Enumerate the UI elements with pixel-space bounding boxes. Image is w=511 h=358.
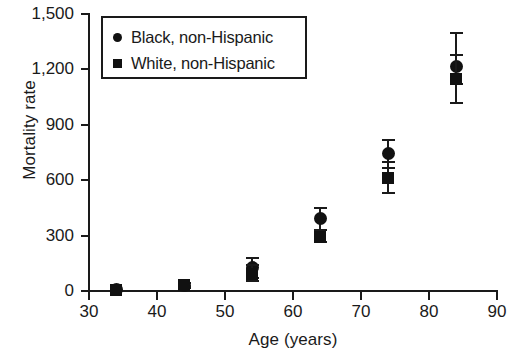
y-tick-label: 900 (0, 116, 74, 133)
circle-marker-icon (113, 33, 131, 42)
x-tick (360, 292, 362, 300)
y-tick-label: 1,200 (0, 60, 74, 77)
data-point-white (110, 284, 122, 296)
x-tick-label: 60 (273, 303, 313, 320)
x-tick-label: 30 (69, 303, 109, 320)
legend-label: White, non-Hispanic (131, 54, 275, 73)
x-tick-label: 80 (409, 303, 449, 320)
error-bar-cap (450, 102, 463, 104)
y-tick (81, 68, 89, 70)
error-bar-cap (382, 192, 395, 194)
data-point-white (246, 268, 258, 280)
x-tick-label: 70 (341, 303, 381, 320)
legend-label: Black, non-Hispanic (131, 28, 273, 47)
x-tick-label: 40 (137, 303, 177, 320)
x-tick (428, 292, 430, 300)
data-point-white (382, 172, 394, 184)
data-point-black (382, 147, 395, 160)
y-tick-label: 1,500 (0, 5, 74, 22)
x-axis-title: Age (years) (89, 330, 497, 350)
data-point-white (178, 279, 190, 291)
error-bar-cap (382, 161, 395, 163)
x-tick (156, 292, 158, 300)
error-bar-cap (314, 207, 327, 209)
legend-item-white: White, non-Hispanic (113, 50, 297, 76)
y-tick-label: 0 (0, 282, 74, 299)
x-tick (496, 292, 498, 300)
error-bar-cap (246, 264, 259, 266)
y-tick (81, 235, 89, 237)
y-tick-label: 600 (0, 171, 74, 188)
y-tick (81, 13, 89, 15)
legend-item-black: Black, non-Hispanic (113, 24, 297, 50)
error-bar-cap (382, 139, 395, 141)
error-bar-cap (450, 54, 463, 56)
square-marker-icon (113, 59, 131, 68)
y-tick (81, 179, 89, 181)
x-tick (224, 292, 226, 300)
error-bar-cap (450, 32, 463, 34)
data-point-black (314, 212, 327, 225)
x-tick-label: 50 (205, 303, 245, 320)
data-point-white (450, 73, 462, 85)
data-point-white (314, 231, 326, 243)
x-tick (88, 292, 90, 300)
y-tick (81, 124, 89, 126)
error-bar-cap (246, 257, 259, 259)
y-axis-line (88, 13, 90, 292)
chart-legend: Black, non-Hispanic White, non-Hispanic (101, 16, 307, 79)
error-bar-cap (246, 280, 259, 282)
y-tick-label: 300 (0, 227, 74, 244)
x-tick (292, 292, 294, 300)
x-tick-label: 90 (477, 303, 511, 320)
